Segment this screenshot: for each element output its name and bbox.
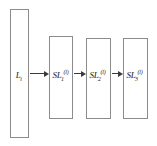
- diagram-canvas: Li SL1(l) SL2(l) SL3(l): [0, 0, 157, 146]
- arrow-head-sl2-to-sl3: [118, 71, 123, 77]
- arrow-head-sl1-to-sl2: [81, 71, 86, 77]
- arrow-input-to-sl1: [30, 73, 44, 74]
- node-label-sublayer-1: SL1(l): [53, 65, 70, 81]
- node-label-input-layer: Li: [16, 65, 22, 81]
- arrow-sl1-to-sl2: [74, 73, 81, 74]
- node-label-sublayer-2: SL2(l): [90, 65, 107, 81]
- arrow-head-input-to-sl1: [44, 71, 49, 77]
- node-label-sublayer-3: SL3(l): [127, 65, 144, 81]
